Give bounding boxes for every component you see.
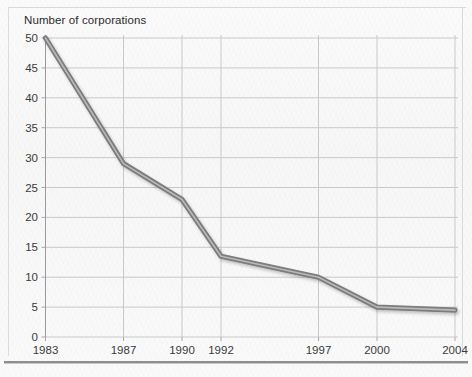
y-axis-tick-label: 30 [12,152,38,164]
horizontal-gridlines [46,38,459,337]
y-axis-tick-label: 35 [12,122,38,134]
y-axis-tick-label: 50 [12,32,38,44]
x-axis-tick-label: 1987 [111,344,137,356]
x-axis-tick-label: 1983 [33,344,59,356]
y-axis-tick-label: 5 [12,301,38,313]
vertical-gridlines [46,35,456,337]
y-axis-tick-label: 45 [12,62,38,74]
y-axis-tick-label: 20 [12,211,38,223]
y-axis-tick-marks [42,38,46,337]
data-series-line-highlight [46,38,456,310]
y-axis-tick-label: 25 [12,182,38,194]
y-axis-labels: 05101520253035404550 [6,0,38,377]
x-axis-tick-label: 1997 [306,344,332,356]
y-axis-tick-label: 15 [12,241,38,253]
x-axis-tick-label: 1992 [208,344,234,356]
x-axis-tick-marks [46,337,456,341]
x-axis-tick-label: 1990 [169,344,195,356]
chart-page: Number of corporations 05101520253035404… [0,0,472,377]
x-axis-tick-label: 2004 [442,344,468,356]
y-axis-tick-label: 10 [12,271,38,283]
data-series-line [46,38,456,310]
y-axis-tick-label: 0 [12,331,38,343]
line-chart-plot [0,0,472,377]
y-axis-tick-label: 40 [12,92,38,104]
x-axis-tick-label: 2000 [364,344,390,356]
